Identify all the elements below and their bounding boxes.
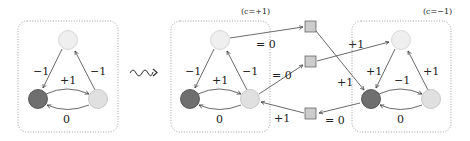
middle-graph: (c=+1) −1 −1 +1 0 bbox=[171, 7, 270, 132]
label-top-to-left: +1 bbox=[366, 65, 382, 78]
right-graph: (c=−1) +1 +1 −1 0 bbox=[352, 7, 452, 132]
label-sq1-to-right-left: +1 bbox=[337, 76, 353, 89]
label-top-to-left: −1 bbox=[185, 65, 201, 78]
node-top bbox=[59, 31, 78, 50]
node-bottom-right bbox=[89, 90, 108, 109]
label-left-to-right: +1 bbox=[60, 74, 76, 87]
middle-graph-caption: (c=+1) bbox=[241, 7, 270, 16]
left-graph: −1 −1 +1 0 bbox=[18, 21, 118, 132]
edge-mid-top-to-sq1 bbox=[230, 27, 303, 38]
node-bottom-right bbox=[241, 90, 260, 109]
label-right-to-top: +1 bbox=[423, 65, 439, 78]
edge-right-left-to-sq3 bbox=[319, 103, 360, 113]
node-bottom-left-dark bbox=[362, 90, 381, 109]
edge-right-to-left bbox=[47, 105, 89, 110]
node-top bbox=[211, 31, 230, 50]
label-right-to-top: −1 bbox=[90, 65, 106, 78]
label-left-to-right: +1 bbox=[212, 74, 228, 87]
edge-right-to-left bbox=[380, 105, 422, 110]
node-bottom-right bbox=[422, 90, 441, 109]
label-right-to-left: 0 bbox=[216, 113, 223, 126]
square-node-1 bbox=[305, 21, 316, 32]
edge-left-to-right bbox=[198, 89, 241, 94]
diagram-canvas: −1 −1 +1 0 (c=+1) −1 −1 +1 0 = 0 bbox=[0, 0, 470, 141]
label-right-to-sq2: = 0 bbox=[272, 69, 292, 82]
square-node-3 bbox=[305, 108, 316, 119]
square-node-2 bbox=[305, 56, 316, 67]
label-right-to-top: −1 bbox=[242, 65, 258, 78]
label-sq2-to-right-top: +1 bbox=[348, 38, 364, 51]
edge-left-to-right bbox=[46, 89, 89, 94]
right-graph-caption: (c=−1) bbox=[423, 7, 452, 16]
label-right-to-left: 0 bbox=[63, 113, 70, 126]
label-left-to-right: −1 bbox=[394, 74, 410, 87]
node-bottom-left-dark bbox=[181, 90, 200, 109]
node-bottom-left-dark bbox=[29, 90, 48, 109]
label-top-to-left: −1 bbox=[33, 65, 49, 78]
edge-right-to-left bbox=[199, 105, 241, 110]
node-top bbox=[392, 31, 411, 50]
label-right-to-left: 0 bbox=[397, 113, 404, 126]
label-right-left-to-sq3: = 0 bbox=[325, 114, 345, 127]
label-sq3-to-right: +1 bbox=[274, 112, 290, 125]
edge-left-to-right bbox=[379, 89, 422, 94]
squiggle-arrow-icon bbox=[130, 69, 157, 76]
label-top-to-sq1: = 0 bbox=[256, 38, 276, 51]
